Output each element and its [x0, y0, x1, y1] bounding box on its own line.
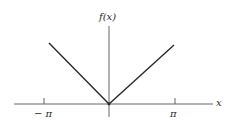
tick-label-neg-pi: − π — [34, 109, 52, 119]
y-axis-label: f(x) — [99, 12, 116, 22]
origin-point — [108, 103, 111, 106]
tick-label-pos-pi: π — [170, 109, 177, 119]
function-line — [49, 43, 174, 104]
x-axis-label: x — [216, 98, 222, 108]
